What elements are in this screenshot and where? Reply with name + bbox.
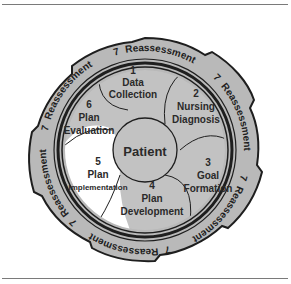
svg-text:Plan: Plan bbox=[87, 169, 108, 180]
svg-text:Evaluation: Evaluation bbox=[64, 125, 115, 136]
svg-text:Formation: Formation bbox=[184, 183, 233, 194]
svg-text:2: 2 bbox=[193, 88, 199, 99]
nursing-process-wheel: Patient 1 Data Collection 2 Nursing Diag… bbox=[0, 0, 291, 284]
svg-text:5: 5 bbox=[95, 156, 101, 167]
svg-text:6: 6 bbox=[86, 99, 92, 110]
svg-text:Goal: Goal bbox=[197, 170, 219, 181]
svg-text:Plan: Plan bbox=[141, 193, 162, 204]
svg-text:Implementation: Implementation bbox=[68, 183, 127, 192]
svg-text:4: 4 bbox=[149, 180, 155, 191]
svg-text:Data: Data bbox=[122, 77, 144, 88]
center-label: Patient bbox=[123, 144, 167, 159]
center-circle: Patient bbox=[113, 118, 177, 182]
svg-text:Diagnosis: Diagnosis bbox=[172, 114, 220, 125]
svg-text:Collection: Collection bbox=[109, 89, 157, 100]
svg-text:3: 3 bbox=[205, 157, 211, 168]
svg-text:Plan: Plan bbox=[78, 112, 99, 123]
svg-text:Nursing: Nursing bbox=[177, 101, 215, 112]
svg-text:Development: Development bbox=[121, 206, 184, 217]
svg-text:1: 1 bbox=[130, 65, 136, 76]
